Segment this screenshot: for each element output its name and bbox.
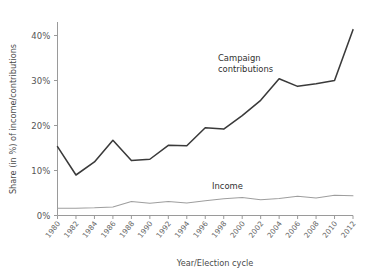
y-tick-label: 0% <box>37 211 51 221</box>
y-tick-label: 40% <box>31 31 50 41</box>
series-annotation-income: Income <box>212 181 243 191</box>
y-tick-label: 10% <box>31 166 50 176</box>
x-axis-title: Year/Election cycle <box>176 258 254 268</box>
y-tick-label: 20% <box>31 121 50 131</box>
chart-figure: 0%10%20%30%40% 1980198219841986198819901… <box>0 0 373 275</box>
line-chart: 0%10%20%30%40% 1980198219841986198819901… <box>0 0 373 275</box>
chart-background <box>0 0 373 275</box>
y-axis-title: Share (in %) of income/contributions <box>8 44 18 194</box>
y-tick-label: 30% <box>31 76 50 86</box>
